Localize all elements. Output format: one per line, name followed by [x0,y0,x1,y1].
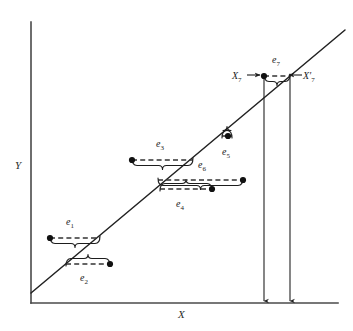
e4-data-point [209,186,215,192]
residual-e2 [66,255,113,268]
plot-canvas [0,0,353,331]
residual-label-e1: e1 [66,216,74,230]
y-axis-label: Y [15,159,21,171]
residual-segments-group [47,73,290,267]
e7-data-point [261,73,267,79]
residual-label-e7: e7 [272,54,280,68]
e3-data-point [129,157,135,163]
residual-e3 [129,157,193,170]
drop-lines-group [264,76,290,301]
e6-data-point [240,177,246,183]
e5-data-point [225,133,231,139]
point-label-X7prime: X′7 [303,70,315,84]
residual-label-e4: e4 [176,198,184,212]
e1-data-point [47,235,53,241]
residual-label-e5: e5 [222,146,230,160]
e2-data-point [107,261,113,267]
regression-line [31,30,345,293]
residual-e5 [222,127,232,140]
residual-label-e3: e3 [156,138,164,152]
residual-label-e2: e2 [80,272,88,286]
x-axis-label: X [178,308,185,320]
residual-plot-figure: Y X e1e2e3e4e5e6e7 X7X′7 [0,0,353,331]
point-label-X7: X7 [232,70,242,84]
axes [31,22,338,303]
residual-label-e6: e6 [198,159,206,173]
